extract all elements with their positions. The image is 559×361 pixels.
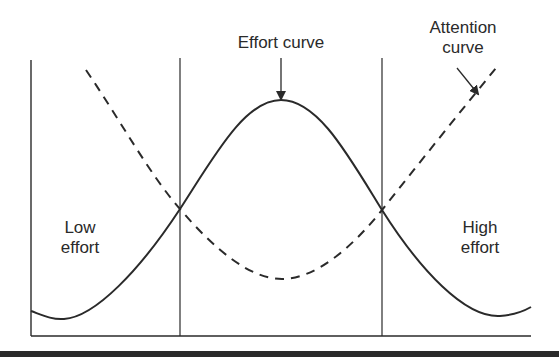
attention-curve-label: Attention curve <box>420 18 506 58</box>
low-effort-label: Low effort <box>50 218 110 258</box>
effort-curve-label-text: Effort curve <box>228 33 334 53</box>
low-effort-label-line2: effort <box>50 238 110 258</box>
effort-curve-label: Effort curve <box>228 33 334 53</box>
low-effort-label-line1: Low <box>50 218 110 238</box>
high-effort-label: High effort <box>450 218 510 258</box>
attention-curve <box>86 68 496 279</box>
attention-curve-arrow <box>457 68 478 94</box>
attention-curve-label-line2: curve <box>420 38 506 58</box>
bottom-rule <box>0 351 559 357</box>
attention-curve-label-line1: Attention <box>420 18 506 38</box>
effort-curve <box>31 100 531 319</box>
high-effort-label-line2: effort <box>450 238 510 258</box>
high-effort-label-line1: High <box>450 218 510 238</box>
